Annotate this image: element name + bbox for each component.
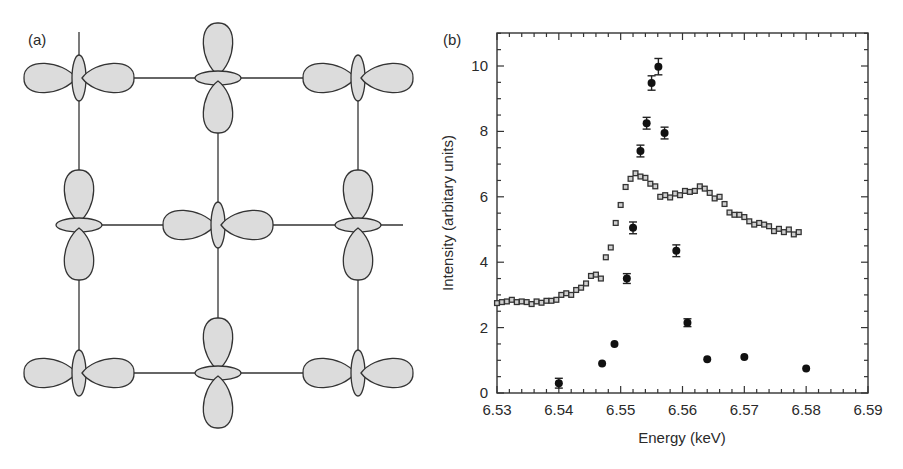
data-point-square: [519, 299, 524, 304]
data-point-square: [752, 222, 757, 227]
data-point-square: [539, 300, 544, 305]
data-point-square: [777, 226, 782, 231]
data-point-square: [692, 189, 697, 194]
data-point-circle: [636, 147, 644, 155]
data-point-circle: [643, 119, 651, 127]
data-point-circle: [802, 364, 810, 372]
data-point-circle: [661, 129, 669, 137]
orbital-lobe: [82, 63, 134, 92]
lattice-sites: [24, 23, 413, 428]
panel-a-orbital-lattice: (a): [24, 23, 413, 428]
data-point-square: [579, 285, 584, 290]
data-point-square: [791, 232, 796, 237]
data-point-square: [796, 230, 801, 235]
y-tick-label: 10: [471, 57, 488, 74]
data-point-square: [727, 210, 732, 215]
data-point-circle: [555, 379, 563, 387]
data-point-square: [648, 181, 653, 186]
data-point-square: [786, 227, 791, 232]
data-point-square: [722, 202, 727, 207]
data-point-square: [663, 193, 668, 198]
data-point-square: [638, 174, 643, 179]
data-point-square: [772, 229, 777, 234]
data-point-square: [514, 300, 519, 305]
data-point-square: [534, 299, 539, 304]
x-tick-label: 6.53: [482, 401, 511, 418]
data-point-square: [549, 298, 554, 303]
y-tick-label: 8: [480, 122, 488, 139]
data-point-square: [504, 299, 509, 304]
data-point-square: [603, 255, 608, 260]
data-point-square: [747, 219, 752, 224]
data-point-circle: [623, 275, 631, 283]
orbital-site-vertical: [335, 170, 381, 280]
x-tick-label: 6.58: [792, 401, 821, 418]
data-point-square: [608, 245, 613, 250]
data-point-square: [589, 274, 594, 279]
panel-b-spectrum-chart: (b) 6.536.546.556.566.576.586.590246810 …: [439, 31, 883, 446]
data-point-circle: [703, 355, 711, 363]
data-point-square: [559, 293, 564, 298]
y-tick-label: 2: [480, 319, 488, 336]
data-point-square: [688, 189, 693, 194]
data-point-square: [569, 293, 574, 298]
x-tick-label: 6.57: [730, 401, 759, 418]
data-point-square: [658, 194, 663, 199]
data-point-circle: [672, 247, 680, 255]
orbital-lobe: [163, 210, 215, 239]
orbital-site-horizontal: [303, 55, 413, 101]
orbital-lobe: [24, 63, 76, 92]
data-point-square: [574, 288, 579, 293]
data-point-square: [628, 176, 633, 181]
data-point-square: [598, 276, 603, 281]
x-tick-label: 6.59: [853, 401, 882, 418]
data-point-circle: [629, 224, 637, 232]
data-point-square: [762, 222, 767, 227]
data-point-circle: [740, 353, 748, 361]
data-point-square: [653, 184, 658, 189]
data-point-square: [584, 281, 589, 286]
data-point-square: [742, 215, 747, 220]
data-point-square: [623, 185, 628, 190]
figure: (a) (b) 6.536.546.556.566.576.586.590246…: [0, 0, 903, 469]
data-point-circle: [654, 63, 662, 71]
plot-frame: [497, 33, 868, 393]
y-tick-label: 0: [480, 384, 488, 401]
data-point-square: [495, 301, 500, 306]
panel-b-label: (b): [443, 31, 461, 48]
data-point-square: [717, 194, 722, 199]
data-point-square: [767, 224, 772, 229]
data-point-square: [673, 191, 678, 196]
data-point-square: [509, 297, 514, 302]
orbital-lobe: [221, 210, 273, 239]
data-point-square: [782, 230, 787, 235]
y-axis-label: Intensity (arbitary units): [439, 135, 456, 291]
data-point-square: [613, 221, 618, 226]
x-axis-label: Energy (keV): [638, 429, 726, 446]
data-point-square: [757, 221, 762, 226]
data-point-square: [554, 297, 559, 302]
y-tick-label: 4: [480, 253, 488, 270]
orbital-site-vertical: [56, 170, 102, 280]
data-point-square: [732, 212, 737, 217]
orbital-lobe: [303, 63, 355, 92]
orbital-site-horizontal: [163, 202, 273, 248]
data-point-square: [544, 298, 549, 303]
orbital-lobe: [343, 170, 372, 222]
data-point-square: [712, 196, 717, 201]
x-tick-label: 6.56: [668, 401, 697, 418]
data-point-square: [643, 175, 648, 180]
y-tick-label: 6: [480, 188, 488, 205]
data-point-square: [529, 302, 534, 307]
data-point-square: [618, 203, 623, 208]
data-point-square: [524, 300, 529, 305]
data-point-square: [683, 189, 688, 194]
panel-a-label: (a): [28, 31, 46, 48]
orbital-lobe: [64, 170, 93, 222]
orbital-lobe: [24, 358, 76, 387]
orbital-lobe: [82, 358, 134, 387]
series-open-squares: [495, 171, 802, 307]
data-point-square: [678, 193, 683, 198]
data-point-square: [500, 300, 505, 305]
data-point-circle: [610, 340, 618, 348]
